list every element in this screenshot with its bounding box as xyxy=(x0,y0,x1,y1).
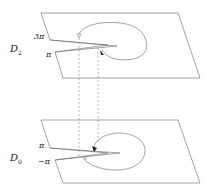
upper-sheet-label-sub: 2 xyxy=(18,49,22,56)
dashed-connectors xyxy=(79,38,98,156)
lower-cut-upper-label: π xyxy=(39,142,44,150)
upper-sheet-label-main: D xyxy=(10,43,18,54)
lower-cut-lower-label: −π xyxy=(38,158,50,166)
lower-sheet-cut xyxy=(50,148,120,160)
diagram-canvas xyxy=(0,0,210,195)
lower-sheet xyxy=(41,120,200,183)
upper-sheet xyxy=(41,13,200,78)
upper-cut-lower-label: π xyxy=(46,51,51,59)
lower-sheet-label-main: D xyxy=(10,152,18,163)
lower-sheet-label-sub: 0 xyxy=(18,158,22,165)
upper-sheet-label: D2 xyxy=(10,44,22,56)
riemann-sheets-diagram: D2 3π π D0 π −π xyxy=(0,0,210,195)
upper-sheet-spiral xyxy=(79,22,147,59)
upper-small-arrow-icon xyxy=(77,34,81,38)
lower-sheet-outline xyxy=(41,120,200,183)
lower-sheet-label: D0 xyxy=(10,153,22,165)
upper-arrow-icon xyxy=(100,50,104,55)
upper-cut-upper-label: 3π xyxy=(34,33,44,41)
upper-sheet-cut xyxy=(50,40,117,52)
